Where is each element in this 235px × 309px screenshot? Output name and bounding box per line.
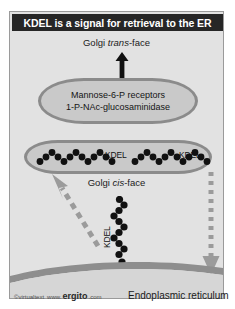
kdel-label-right: KDEL: [179, 150, 200, 160]
watermark-www: www.: [44, 294, 61, 300]
cargo-line-2: 1-P-NAc-glucosaminidase: [41, 102, 195, 114]
golgi-trans-suffix: -face: [129, 37, 150, 48]
golgi-trans-face-label: Golgi trans-face: [10, 37, 223, 48]
trans-cisterna-contents: Mannose-6-P receptors 1-P-NAc-glucosamin…: [41, 90, 195, 113]
cargo-line-1: Mannose-6-P receptors: [41, 90, 195, 102]
golgi-trans-cisterna: Mannose-6-P receptors 1-P-NAc-glucosamin…: [38, 78, 198, 124]
golgi-trans-prefix: Golgi: [83, 37, 108, 48]
watermark-copyright: ©virtualtext: [14, 294, 44, 300]
figure-title-bar: KDEL is a signal for retrieval to the ER: [12, 14, 223, 31]
golgi-trans-italic: trans: [108, 37, 129, 48]
kdel-label-left: KDEL: [105, 150, 126, 160]
watermark-tld: .com: [88, 294, 101, 300]
golgi-cis-face-label: Golgi cis-face: [10, 177, 223, 188]
watermark: ©virtualtext www. ergito .com: [14, 291, 101, 301]
golgi-cis-suffix: -face: [124, 177, 145, 188]
kdel-protein-chain-right-icon: [131, 148, 215, 166]
kdel-label-vertical: KDEL: [102, 227, 112, 248]
figure-panel: KDEL is a signal for retrieval to the ER…: [9, 11, 224, 299]
page-title: KDEL is a signal for retrieval to the ER: [24, 17, 212, 29]
golgi-cis-cisterna: KDEL KDEL: [24, 140, 212, 174]
endoplasmic-reticulum-label: Endoplasmic reticulum: [128, 290, 229, 301]
retrieval-arrow-icon: [46, 172, 102, 248]
watermark-brand: ergito: [61, 291, 88, 301]
trans-face-arrow-icon: [115, 52, 129, 78]
golgi-cis-italic: cis: [113, 177, 125, 188]
